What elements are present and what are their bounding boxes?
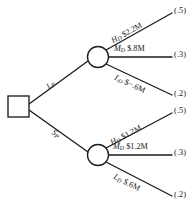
decision-node-square	[8, 96, 29, 117]
probability-upper-medium: (.3)	[174, 51, 186, 59]
lower-medium-state-sub: D	[120, 145, 124, 151]
tree-canvas	[0, 0, 196, 209]
outcome-label-lower-medium: MD $1.2M	[113, 143, 148, 151]
probability-upper-high: (.5)	[174, 7, 186, 15]
outcome-label-upper-medium: MD $.8M	[114, 45, 145, 53]
lower-medium-payoff: $1.2M	[126, 142, 148, 151]
upper-medium-state-sub: D	[121, 47, 125, 53]
upper-medium-state: M	[114, 44, 121, 53]
decision-tree-diagram: LP SP HD $2.2M MD $.8M LD $−.6M HD $1.2M…	[0, 0, 196, 209]
probability-lower-high: (.5)	[174, 107, 186, 115]
chance-node-lower-circle	[88, 145, 109, 166]
probability-lower-medium: (.3)	[174, 149, 186, 157]
chance-node-upper-circle	[88, 47, 109, 68]
edge-decision-to-upper-chance	[29, 61, 88, 104]
lower-medium-state: M	[113, 142, 120, 151]
probability-lower-low: (.2)	[174, 191, 186, 199]
probability-upper-low: (.2)	[174, 90, 186, 98]
upper-medium-payoff: $.8M	[127, 44, 145, 53]
